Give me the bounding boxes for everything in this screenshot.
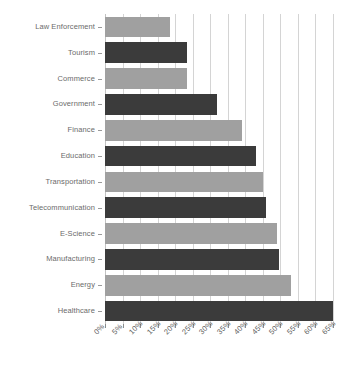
bar-row[interactable] — [105, 42, 333, 63]
bar-series — [105, 14, 333, 324]
bar[interactable] — [105, 120, 242, 141]
y-axis: Law EnforcementTourismCommerceGovernment… — [0, 14, 105, 324]
y-axis-label: Healthcare — [58, 306, 95, 315]
y-axis-label: Tourism — [68, 48, 95, 57]
bar[interactable] — [105, 249, 279, 270]
y-axis-tick — [98, 182, 102, 183]
y-axis-tick — [98, 311, 102, 312]
y-axis-label: Education — [61, 151, 95, 160]
y-axis-tick — [98, 156, 102, 157]
plot-area — [105, 14, 333, 324]
y-axis-tick — [98, 130, 102, 131]
bar-row[interactable] — [105, 249, 333, 270]
y-axis-label: E-Science — [60, 229, 95, 238]
bar-row[interactable] — [105, 223, 333, 244]
y-axis-tick — [98, 53, 102, 54]
bar[interactable] — [105, 301, 333, 322]
bar-row[interactable] — [105, 94, 333, 115]
y-axis-label: Transportation — [46, 177, 95, 186]
bar-row[interactable] — [105, 120, 333, 141]
bar[interactable] — [105, 17, 170, 38]
y-axis-tick — [98, 259, 102, 260]
bar-row[interactable] — [105, 68, 333, 89]
y-axis-label: Commerce — [58, 74, 95, 83]
bar-row[interactable] — [105, 197, 333, 218]
y-axis-label: Manufacturing — [46, 254, 95, 263]
bar[interactable] — [105, 197, 266, 218]
bar-chart: Law EnforcementTourismCommerceGovernment… — [0, 0, 352, 367]
y-axis-tick — [98, 104, 102, 105]
y-axis-tick — [98, 285, 102, 286]
y-axis-label: Law Enforcement — [35, 22, 95, 31]
y-axis-label: Telecommunication — [29, 203, 95, 212]
y-axis-tick — [98, 27, 102, 28]
gridline — [333, 14, 334, 324]
bar-row[interactable] — [105, 301, 333, 322]
y-axis-tick — [98, 234, 102, 235]
bar[interactable] — [105, 223, 277, 244]
bar[interactable] — [105, 42, 187, 63]
x-axis: 0%5%10%15%20%25%30%35%40%45%50%55%60%65% — [105, 324, 333, 367]
bar-row[interactable] — [105, 146, 333, 167]
bar-row[interactable] — [105, 17, 333, 38]
bar[interactable] — [105, 172, 263, 193]
y-axis-tick — [98, 208, 102, 209]
bar-row[interactable] — [105, 172, 333, 193]
y-axis-tick — [98, 79, 102, 80]
y-axis-label: Energy — [71, 280, 95, 289]
y-axis-label: Government — [53, 99, 95, 108]
bar[interactable] — [105, 275, 291, 296]
bar[interactable] — [105, 68, 187, 89]
bar[interactable] — [105, 94, 217, 115]
y-axis-label: Finance — [68, 125, 95, 134]
bar-row[interactable] — [105, 275, 333, 296]
bar[interactable] — [105, 146, 256, 167]
